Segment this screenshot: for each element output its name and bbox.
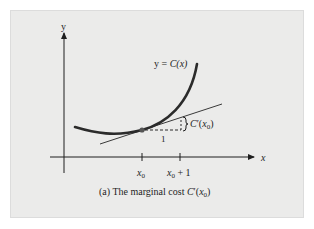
marginal-cost-diagram: y x x0 x0 + 1 1 C′(x0) y = C(x) (a) The …: [0, 0, 314, 229]
figure-caption: (a) The marginal cost C′(x0): [99, 186, 210, 199]
curve-label: y = C(x): [154, 58, 188, 70]
cost-curve: [75, 64, 197, 134]
y-axis-label: y: [61, 21, 66, 32]
tangent-point: [139, 127, 144, 132]
rise-label: C′(x0): [190, 118, 214, 131]
x-axis-label: x: [260, 152, 266, 163]
rise-brace: [183, 117, 188, 131]
tick-label-x0-plus-1: x0 + 1: [166, 167, 191, 180]
tick-label-x0: x0: [136, 167, 145, 180]
run-label: 1: [161, 134, 166, 144]
